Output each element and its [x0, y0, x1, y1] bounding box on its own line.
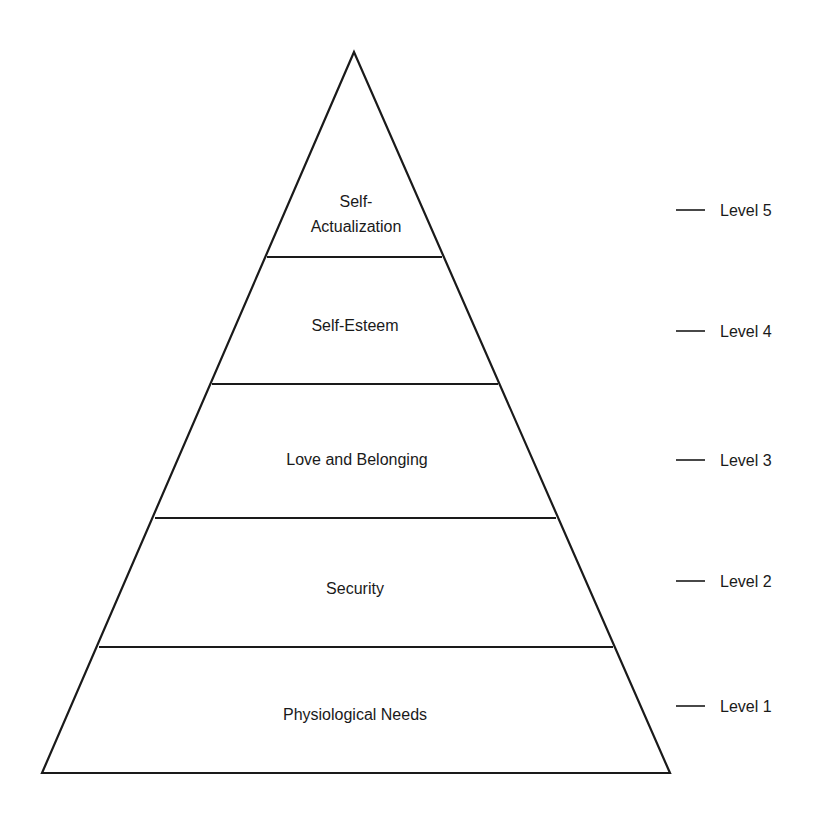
tier-label-security: Security [326, 580, 384, 597]
tier-label-physiological-needs: Physiological Needs [283, 706, 427, 723]
pyramid-svg: Self- Actualization Self-Esteem Love and… [0, 0, 830, 820]
pyramid-outline [42, 52, 670, 773]
level-1-label: Level 1 [720, 698, 772, 715]
tier-label-love-belonging: Love and Belonging [286, 451, 427, 468]
level-4-label: Level 4 [720, 323, 772, 340]
tier-label-self-actualization-line2: Actualization [311, 218, 402, 235]
tier-label-self-actualization-line1: Self- [340, 193, 373, 210]
pyramid-diagram: Self- Actualization Self-Esteem Love and… [0, 0, 830, 820]
level-5-label: Level 5 [720, 202, 772, 219]
tier-label-self-esteem: Self-Esteem [311, 317, 398, 334]
level-2-label: Level 2 [720, 573, 772, 590]
level-3-label: Level 3 [720, 452, 772, 469]
